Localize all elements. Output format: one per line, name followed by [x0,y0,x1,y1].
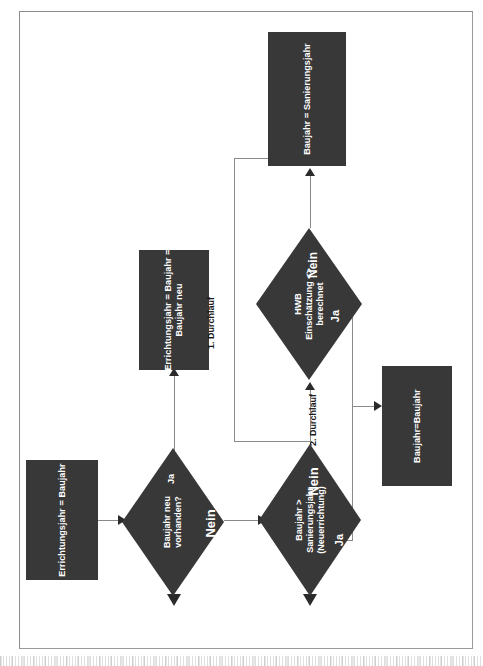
arrowhead-baujahr-baujahr [374,401,382,411]
node-decision-sanierungsjahr-label: Baujahr > Sanierungsjahr (Neuerrichtung) [294,486,327,554]
hwb-line1: HWB [293,293,303,315]
arrowhead-decision1-bottom [167,594,181,606]
hwb-branch-yes: Ja [329,310,341,322]
node-decision-baujahr-neu-label: Baujahr neu vorhanden? [162,496,184,548]
connector-pass1-bottom [234,441,312,442]
decision2-line2: Sanierungsjahr [305,487,315,553]
decision2-line3: (Neuerrichtung) [316,486,326,554]
decision1-branch-yes: Ja [166,474,176,484]
bottom-scan-artifact-band [0,656,483,666]
decision2-line1: Baujahr > [294,499,304,540]
node-result-baujahr[interactable]: Baujahr=Baujahr [382,366,452,486]
node-decision-hwb-label: HWB Einschätzung <> berechnet [293,268,326,340]
connector-pass1-vertical [234,158,235,442]
flow-label-pass-2: 2. Durchlauf [308,394,318,446]
connector-hwb-to-sanierungsjahr [310,172,311,228]
hwb-line2: Einschätzung <> [304,268,314,340]
node-result-sanierungsjahr-label: Baujahr = Sanierungsjahr [302,43,313,155]
errichtungsjahr-neu-line1: Errichtungsjahr = Baujahr = [163,249,173,370]
node-errichtungsjahr-neu[interactable]: Errichtungsjahr = Baujahr = Baujahr neu [139,250,209,370]
decision2-branch-yes: Ja [333,534,345,546]
connector-hwb-ja-down [352,316,353,408]
decision1-line1: Baujahr neu [162,496,172,548]
arrowhead-hwb [305,382,315,390]
node-start[interactable]: Errichtungsjahr = Baujahr [26,460,98,580]
decision2-branch-no: Nein [306,467,321,495]
decision1-line2: vorhanden? [173,496,183,548]
node-result-sanierungsjahr[interactable]: Baujahr = Sanierungsjahr [268,32,346,166]
errichtungsjahr-neu-line2: Baujahr neu [174,283,184,336]
node-start-label: Errichtungsjahr = Baujahr [57,463,68,576]
diagram-canvas: Errichtungsjahr = Baujahr Baujahr neu vo… [0,0,483,666]
node-errichtungsjahr-neu-label: Errichtungsjahr = Baujahr = Baujahr neu [163,249,185,370]
arrowhead-sanierungsjahr [305,168,315,176]
node-result-baujahr-label: Baujahr=Baujahr [412,389,423,463]
hwb-line3: berechnet [315,283,325,326]
decision1-branch-no: Nein [203,509,218,537]
flow-label-pass-1: 1. Durchlauf [206,297,216,349]
hwb-branch-no: Nein [306,252,320,278]
